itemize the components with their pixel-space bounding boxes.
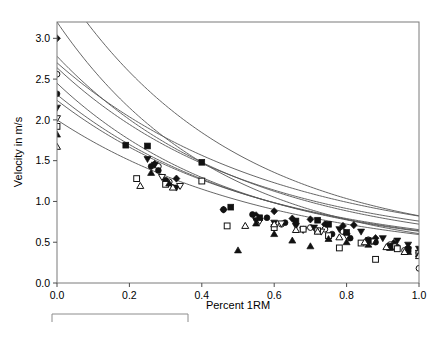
data-point-filled-triangle-up	[307, 243, 314, 249]
y-tick-label: 3.0	[35, 32, 50, 44]
fit-curve-filled-circle	[57, 56, 419, 224]
data-point-open-square	[224, 223, 230, 229]
data-point-open-square	[134, 176, 140, 182]
y-tick-label: 0.0	[35, 277, 50, 289]
y-tick-label: 1.5	[35, 154, 50, 166]
y-tick-label: 0.5	[35, 236, 50, 248]
x-tick-label: 0.8	[339, 289, 354, 301]
data-point-filled-triangle-down	[379, 236, 386, 242]
fit-curve-filled-triangle-up	[57, 100, 419, 229]
data-point-filled-triangle-up	[235, 247, 242, 253]
x-tick-label: 0.0	[50, 289, 65, 301]
data-point-filled-circle	[155, 168, 161, 174]
y-tick-label: 2.0	[35, 114, 50, 126]
data-point-filled-square	[228, 204, 234, 210]
data-point-filled-triangle-down	[144, 157, 151, 163]
data-point-filled-circle	[221, 207, 227, 213]
data-point-open-square	[199, 178, 205, 184]
data-point-filled-triangle-up	[148, 169, 155, 175]
data-point-filled-circle	[264, 215, 270, 221]
data-point-filled-triangle-down	[358, 229, 365, 235]
data-point-open-triangle-up	[137, 182, 144, 188]
data-point-open-square	[300, 226, 306, 232]
data-point-open-triangle-up	[292, 226, 299, 232]
fit-curve-open-square	[57, 95, 419, 231]
data-point-filled-square	[293, 218, 299, 224]
y-axis-title: Velocity in m/s	[12, 116, 24, 187]
x-tick-label: 1.0	[412, 289, 427, 301]
data-point-filled-square	[145, 143, 151, 149]
data-point-filled-square	[315, 217, 321, 223]
fit-curve-filled-square	[57, 63, 419, 216]
y-tick-label: 2.5	[35, 73, 50, 85]
fit-curve-filled-diamond	[57, 0, 419, 216]
data-point-open-square	[373, 256, 379, 262]
data-point-filled-circle	[250, 212, 256, 218]
y-axis-ticks: 0.00.51.01.52.02.53.0	[35, 32, 57, 289]
x-axis-title: Percent 1RM	[206, 299, 270, 311]
data-point-filled-diamond	[350, 221, 357, 228]
data-point-open-square	[394, 246, 400, 252]
fit-curves-layer	[57, 0, 419, 235]
data-point-filled-square	[344, 230, 350, 236]
data-point-open-triangle-up	[242, 222, 249, 228]
velocity-vs-percent-1rm-chart: 0.00.20.40.60.81.0 0.00.51.01.52.02.53.0…	[0, 0, 433, 339]
data-point-filled-square	[326, 221, 332, 227]
data-points-layer	[54, 35, 423, 272]
data-point-open-square	[336, 245, 342, 251]
data-point-filled-triangle-up	[271, 231, 278, 237]
fit-curve-filled-triangle-down	[57, 68, 419, 221]
legend-bracket	[52, 314, 188, 322]
y-tick-label: 1.0	[35, 195, 50, 207]
chart-container: 0.00.20.40.60.81.0 0.00.51.01.52.02.53.0…	[0, 0, 433, 339]
data-point-filled-square	[257, 215, 263, 221]
x-tick-label: 0.2	[122, 289, 137, 301]
data-point-filled-square	[199, 159, 205, 165]
data-point-filled-triangle-up	[289, 237, 296, 243]
data-point-filled-square	[123, 142, 129, 148]
